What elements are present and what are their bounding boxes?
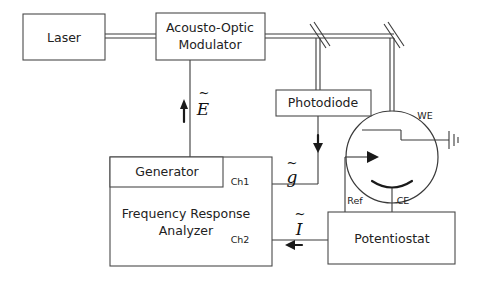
field-symbol: E	[196, 99, 210, 119]
schematic-diagram: Laser Acousto-Optic Modulator Photodiode…	[0, 0, 481, 281]
signal-symbol-field: ~ E	[196, 85, 210, 119]
port-label-ch2: Ch2	[231, 234, 250, 245]
electrode-label-ce: CE	[397, 195, 410, 206]
photo-symbol: g	[287, 167, 298, 187]
electrode-label-we: WE	[417, 110, 432, 121]
electrode-label-ref: Ref	[347, 195, 363, 206]
port-label-ch1: Ch1	[231, 176, 250, 187]
labels-layer: Ch1 Ch2 WE Ref CE ~ E ~ g ~ I	[0, 0, 481, 281]
signal-symbol-current: ~ I	[295, 206, 306, 239]
current-symbol: I	[295, 219, 303, 239]
field-tilde-accent: ~	[199, 85, 210, 100]
signal-symbol-photo: ~ g	[287, 155, 298, 187]
